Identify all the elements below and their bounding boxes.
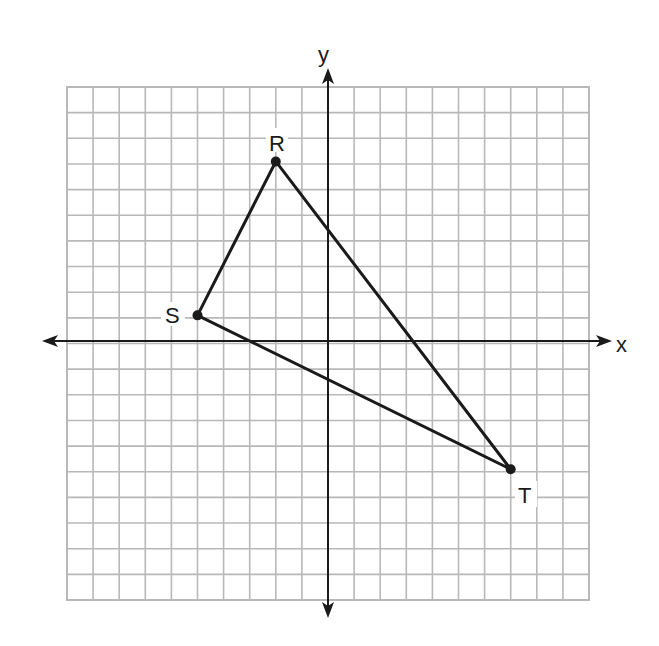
vertex-s-label: S xyxy=(165,303,180,328)
coordinate-plane: x y R S T xyxy=(0,0,659,646)
vertex-t-point xyxy=(506,464,516,474)
vertex-r-point xyxy=(271,156,281,166)
vertex-r-label: R xyxy=(269,131,285,156)
vertex-s-point xyxy=(193,310,203,320)
x-axis-label: x xyxy=(616,332,627,357)
y-axis-label: y xyxy=(318,42,329,67)
vertex-t-label: T xyxy=(518,483,531,508)
